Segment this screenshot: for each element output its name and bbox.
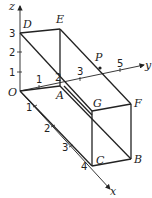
- point-P: [98, 66, 101, 69]
- vertex-D-label: D: [22, 18, 32, 31]
- x-axis-label: x: [110, 185, 117, 198]
- x-tick-4: 4: [81, 161, 87, 172]
- edge-A-inner: [64, 86, 92, 115]
- y-tick-1: 1: [36, 74, 42, 85]
- vertex-F-label: F: [133, 97, 142, 110]
- x-tick-2: 2: [44, 123, 50, 134]
- vertex-P-label: P: [94, 51, 103, 64]
- x-tick-3: 3: [62, 142, 68, 153]
- vertex-B-label: B: [133, 153, 142, 166]
- z-tick-3: 3: [9, 28, 15, 39]
- vertex-A-label: A: [55, 89, 64, 102]
- origin-label: O: [8, 86, 17, 99]
- z-tick-1: 1: [9, 67, 15, 78]
- diagram-canvas: z y x O 3 2 1 1 3 5 1 2 3 4 D E A 2 P G …: [0, 0, 152, 198]
- vertex-E-label: E: [55, 13, 64, 26]
- z-axis-label: z: [8, 0, 15, 13]
- cuboid-diagram: z y x O 3 2 1 1 3 5 1 2 3 4 D E A 2 P G …: [0, 0, 152, 198]
- a-top-tick-label: 2: [55, 72, 61, 83]
- y-tick-3: 3: [77, 66, 83, 77]
- y-axis-label: y: [144, 59, 152, 72]
- vertex-G-label: G: [93, 97, 102, 110]
- y-tick-5: 5: [117, 58, 123, 69]
- z-tick-2: 2: [9, 47, 15, 58]
- x-tick-1: 1: [26, 102, 32, 113]
- vertex-C-label: C: [96, 154, 105, 167]
